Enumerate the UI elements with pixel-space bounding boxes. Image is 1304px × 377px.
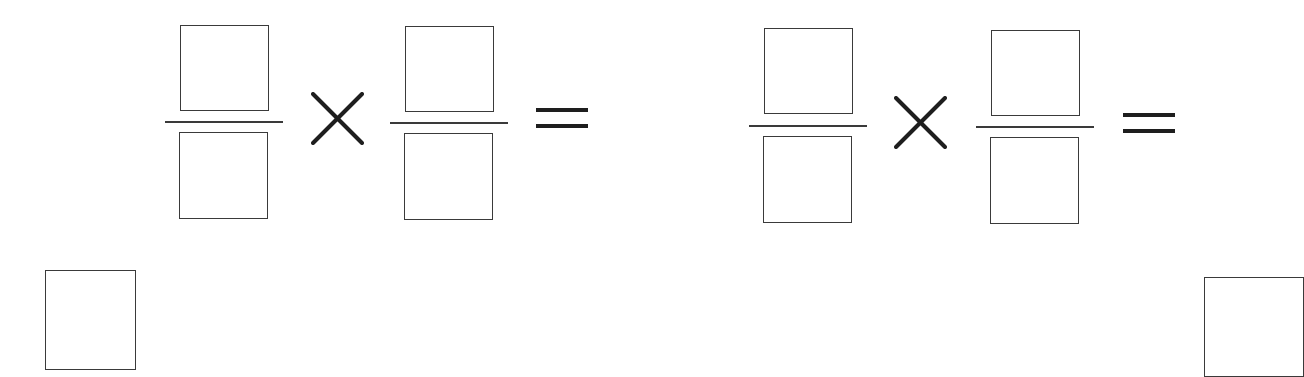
fraction-2-numerator-box[interactable]	[405, 26, 494, 112]
times-icon	[311, 92, 364, 145]
fraction-2-numerator-box[interactable]	[991, 30, 1080, 116]
answer-box-right[interactable]	[1204, 277, 1304, 377]
fraction-2-denominator-box[interactable]	[404, 133, 493, 220]
fraction-2-denominator-box[interactable]	[990, 137, 1079, 224]
equals-icon	[536, 108, 588, 130]
times-icon	[894, 96, 947, 149]
fraction-1-numerator-box[interactable]	[180, 25, 269, 111]
fraction-1-numerator-box[interactable]	[764, 28, 853, 114]
equals-icon	[1123, 113, 1175, 135]
fraction-1-bar	[749, 125, 867, 127]
fraction-2-bar	[976, 126, 1094, 128]
fraction-2-bar	[390, 122, 508, 124]
answer-box-left[interactable]	[45, 270, 136, 370]
fraction-1-denominator-box[interactable]	[763, 136, 852, 223]
fraction-1-bar	[165, 121, 283, 123]
fraction-1-denominator-box[interactable]	[179, 132, 268, 219]
